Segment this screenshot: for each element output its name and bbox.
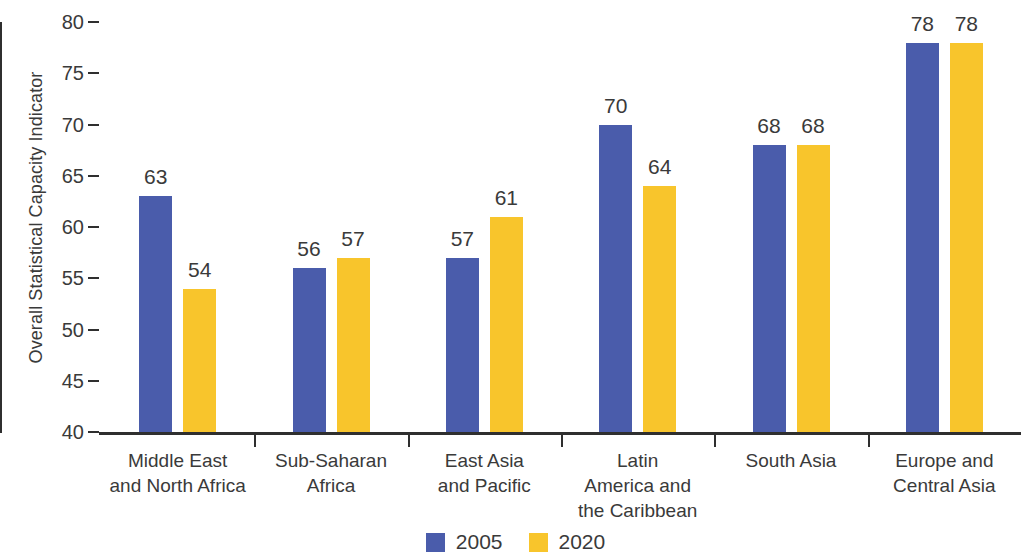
x-axis-tick-mark	[408, 434, 410, 447]
bar	[337, 258, 370, 432]
category-label-line: Central Asia	[853, 473, 1031, 498]
bar-value-label: 57	[341, 227, 364, 251]
y-axis-tick-mark	[88, 329, 99, 331]
chart-legend: 20052020	[0, 530, 1031, 554]
x-axis-tick-mark	[254, 434, 256, 447]
bar	[599, 125, 632, 433]
bar	[446, 258, 479, 432]
bar	[139, 196, 172, 432]
y-axis-tick-mark	[88, 124, 99, 126]
bar	[183, 289, 216, 433]
bar	[293, 268, 326, 432]
x-axis-line	[99, 432, 1021, 435]
bar	[906, 43, 939, 433]
category-label-line: America and	[546, 473, 729, 498]
bar-value-label: 78	[911, 12, 934, 36]
y-axis-tick-mark	[88, 431, 99, 433]
x-axis-tick-mark	[714, 434, 716, 447]
y-axis-tick-mark	[88, 380, 99, 382]
legend-item[interactable]: 2005	[426, 530, 503, 554]
y-axis-tick-mark	[88, 226, 99, 228]
bar-value-label: 70	[604, 94, 627, 118]
bar-value-label: 63	[144, 165, 167, 189]
bar-value-label: 78	[955, 12, 978, 36]
bar-value-label: 68	[801, 114, 824, 138]
y-axis-tick-mark	[88, 175, 99, 177]
bar-value-label: 54	[188, 258, 211, 282]
bar	[950, 43, 983, 433]
bar-chart: Overall Statistical Capacity Indicator 4…	[0, 0, 1031, 559]
bar	[490, 217, 523, 432]
bar-value-label: 61	[495, 186, 518, 210]
bar-value-label: 68	[757, 114, 780, 138]
bar	[753, 145, 786, 432]
y-axis-tick-mark	[88, 21, 99, 23]
y-axis-tick-mark	[88, 72, 99, 74]
bar-value-label: 57	[451, 227, 474, 251]
legend-item[interactable]: 2020	[529, 530, 606, 554]
y-axis-tick-mark	[88, 277, 99, 279]
category-label-line: Europe and	[853, 448, 1031, 473]
bar	[643, 186, 676, 432]
x-axis-tick-mark	[561, 434, 563, 447]
legend-label: 2020	[559, 530, 606, 554]
category-label-line: the Caribbean	[546, 498, 729, 523]
bar-value-label: 56	[297, 237, 320, 261]
legend-swatch	[529, 533, 548, 552]
x-axis-tick-mark	[868, 434, 870, 447]
bar-value-label: 64	[648, 155, 671, 179]
legend-swatch	[426, 533, 445, 552]
bars-layer: 635456575761706468687878	[0, 0, 1031, 432]
legend-label: 2005	[456, 530, 503, 554]
bar	[797, 145, 830, 432]
x-axis-category-label: Europe andCentral Asia	[853, 448, 1031, 498]
